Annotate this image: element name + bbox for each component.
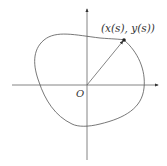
diagram-canvas: (x(s), y(s)) O [0, 0, 167, 166]
closed-curve [35, 34, 145, 126]
origin-label: O [76, 88, 84, 99]
position-vector [87, 41, 123, 85]
curve-point [122, 38, 126, 42]
point-label: (x(s), y(s)) [101, 22, 155, 34]
